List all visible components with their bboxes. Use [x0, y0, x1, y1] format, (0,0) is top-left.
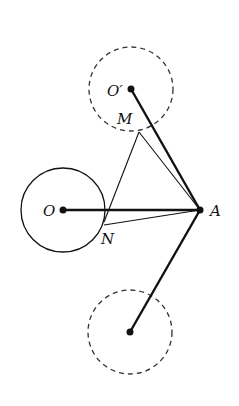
segment-O-prime-A: [131, 89, 200, 210]
segment-MA: [139, 132, 200, 210]
label-O: O: [43, 202, 55, 220]
label-N: N: [100, 230, 115, 248]
geometry-diagram: O′ M O A N: [0, 0, 239, 406]
point-A: [197, 207, 204, 214]
label-A: A: [208, 202, 221, 220]
label-M: M: [116, 110, 133, 128]
point-O: [60, 207, 67, 214]
label-O-prime: O′: [107, 82, 123, 100]
segment-lower-center-A: [130, 210, 200, 332]
segment-NA: [104, 210, 200, 225]
point-lower-center: [127, 329, 134, 336]
point-O-prime: [128, 86, 135, 93]
segment-M-P: [104, 132, 139, 222]
